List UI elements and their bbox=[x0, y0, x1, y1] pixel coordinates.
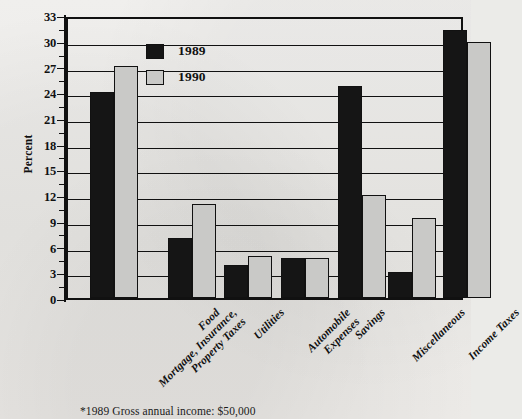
bar-1990-food bbox=[192, 204, 216, 298]
y-tick-label-9: 9 bbox=[28, 217, 56, 230]
legend: 1989 1990 bbox=[146, 40, 266, 92]
y-tick-label-33: 33 bbox=[28, 11, 56, 24]
bar-1989-utilities bbox=[224, 265, 248, 298]
category-label-miscellaneous: Miscellaneous bbox=[409, 306, 467, 364]
legend-entry-1989: 1989 bbox=[146, 40, 266, 62]
bar-1989-automobile bbox=[281, 258, 305, 298]
y-tick-label-24: 24 bbox=[28, 88, 56, 101]
legend-label-1989: 1989 bbox=[178, 44, 206, 58]
category-label-income-taxes-line1: Income Taxes bbox=[466, 306, 522, 362]
y-tick-label-6: 6 bbox=[28, 243, 56, 256]
category-label-income-taxes: Income Taxes bbox=[466, 306, 522, 362]
bar-1989-miscellaneous bbox=[388, 272, 412, 298]
y-axis-title: Percent bbox=[22, 114, 34, 194]
bar-1989-mortgage bbox=[90, 92, 114, 298]
bar-1990-miscellaneous bbox=[412, 218, 436, 298]
legend-label-1990: 1990 bbox=[178, 70, 206, 84]
footnote: *1989 Gross annual income: $50,000 bbox=[80, 405, 256, 417]
legend-swatch-1990-icon bbox=[146, 70, 164, 85]
legend-swatch-1989-icon bbox=[146, 44, 164, 59]
category-label-mortgage-line1: Mortgage, Insurance, bbox=[156, 306, 239, 389]
bar-1990-savings bbox=[362, 195, 386, 298]
y-tick-label-3: 3 bbox=[28, 268, 56, 281]
bar-1990-mortgage bbox=[114, 66, 138, 298]
y-tick-label-30: 30 bbox=[28, 37, 56, 50]
bar-1989-savings bbox=[338, 86, 362, 298]
y-tick-label-27: 27 bbox=[28, 63, 56, 76]
x-axis-category-labels: Mortgage, Insurance, Property Taxes Food… bbox=[0, 300, 471, 400]
bar-1990-income-taxes bbox=[467, 42, 491, 298]
category-label-utilities-line1: Utilities bbox=[251, 306, 287, 342]
bar-1990-utilities bbox=[248, 256, 272, 298]
category-label-utilities: Utilities bbox=[251, 306, 287, 342]
bar-1989-income-taxes bbox=[443, 30, 467, 298]
category-label-miscellaneous-line1: Miscellaneous bbox=[409, 306, 467, 364]
legend-entry-1990: 1990 bbox=[146, 66, 266, 88]
bar-1990-automobile bbox=[305, 258, 329, 298]
bar-1989-food bbox=[168, 238, 192, 298]
